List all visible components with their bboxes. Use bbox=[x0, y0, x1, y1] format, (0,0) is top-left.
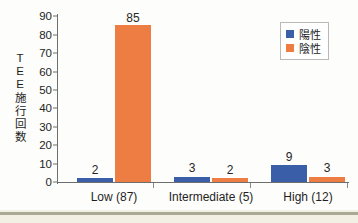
y-axis-tick-label: 0 bbox=[26, 176, 52, 188]
y-axis-tick-label: 40 bbox=[26, 102, 52, 114]
value-label-low-negative: 85 bbox=[126, 11, 139, 25]
x-axis-label-high: High (12) bbox=[283, 190, 332, 204]
x-axis-separator-tick bbox=[153, 183, 154, 188]
legend: 陽性 陰性 bbox=[280, 22, 329, 60]
y-axis-tick-labels: 0 10 20 30 40 50 60 70 80 90 bbox=[26, 16, 52, 182]
legend-swatch-negative-icon bbox=[286, 44, 294, 52]
bar-intermediate-negative bbox=[212, 178, 248, 182]
x-axis-line bbox=[57, 182, 349, 183]
legend-item-negative: 陰性 bbox=[286, 41, 321, 55]
bar-low-negative bbox=[115, 25, 151, 182]
x-axis-label-low: Low (87) bbox=[91, 190, 138, 204]
value-label-high-positive: 9 bbox=[286, 150, 293, 164]
bar-low-positive bbox=[77, 178, 113, 182]
bar-intermediate-positive bbox=[174, 177, 210, 183]
legend-item-positive: 陽性 bbox=[286, 27, 321, 41]
y-axis-tick-label: 10 bbox=[26, 158, 52, 170]
y-axis-tick-label: 70 bbox=[26, 47, 52, 59]
legend-label-negative: 陰性 bbox=[299, 40, 321, 56]
x-axis-separator-tick bbox=[250, 183, 251, 188]
y-axis-tick-label: 80 bbox=[26, 29, 52, 41]
value-label-high-negative: 3 bbox=[324, 161, 331, 175]
legend-swatch-positive-icon bbox=[286, 30, 294, 38]
y-axis-tick-label: 20 bbox=[26, 139, 52, 151]
x-axis-label-intermediate: Intermediate (5) bbox=[169, 190, 254, 204]
bar-high-positive bbox=[271, 165, 307, 182]
y-axis-tick-label: 60 bbox=[26, 66, 52, 78]
value-label-intermediate-negative: 2 bbox=[227, 163, 234, 177]
y-axis-tick-label: 50 bbox=[26, 84, 52, 96]
y-axis-tick-label: 30 bbox=[26, 121, 52, 133]
x-axis-separator-tick bbox=[347, 183, 348, 188]
bar-high-negative bbox=[309, 177, 345, 183]
bar-chart-figure: T E E 施 行 回 数 0 10 20 30 40 50 60 70 80 … bbox=[0, 0, 358, 223]
y-axis-tick-label: 90 bbox=[26, 10, 52, 22]
value-label-intermediate-positive: 3 bbox=[189, 161, 196, 175]
value-label-low-positive: 2 bbox=[92, 163, 99, 177]
scan-artifact-line bbox=[0, 212, 358, 215]
